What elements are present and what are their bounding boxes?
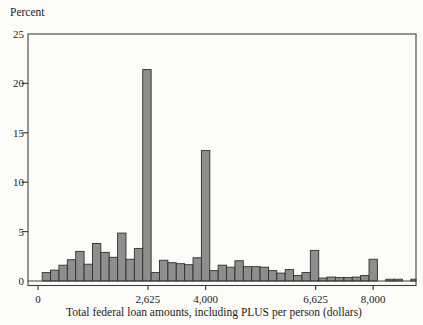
histogram-bar [76, 251, 84, 281]
histogram-bar [126, 259, 134, 281]
histogram-bar [218, 265, 226, 281]
histogram-bar [285, 270, 293, 281]
histogram-bar [277, 273, 285, 281]
histogram-bar [92, 243, 100, 281]
histogram-bar [201, 151, 209, 281]
histogram-bar [168, 263, 176, 281]
y-tick-label: 25 [2, 28, 24, 40]
y-axis-title: Percent [10, 6, 44, 18]
histogram-bar [227, 267, 235, 281]
histogram-figure: Percent 0510152025 02,6254,0006,6258,000… [0, 0, 423, 325]
y-tick-label: 5 [2, 226, 24, 238]
histogram-bar [59, 265, 67, 281]
x-tick-label: 8,000 [361, 293, 386, 305]
histogram-bar [268, 271, 276, 281]
histogram-bar [344, 278, 352, 281]
x-axis-caption: Total federal loan amounts, including PL… [66, 306, 362, 318]
histogram-bar [118, 233, 126, 281]
x-tick-label: 2,625 [136, 293, 161, 305]
plot-frame [28, 34, 416, 286]
histogram-bar [67, 260, 75, 281]
histogram-bar [361, 276, 369, 281]
histogram-bar [176, 264, 184, 281]
x-tick-label: 6,625 [303, 293, 328, 305]
histogram-bar [235, 261, 243, 281]
histogram-bar [243, 267, 251, 281]
histogram-bar [252, 267, 260, 281]
histogram-bar [42, 273, 50, 281]
histogram-bar [310, 250, 318, 281]
y-tick-label: 0 [2, 275, 24, 287]
y-tick-label: 10 [2, 176, 24, 188]
x-tick-label: 0 [35, 293, 41, 305]
plot-canvas [0, 0, 423, 325]
histogram-bar [260, 267, 268, 281]
y-tick-label: 15 [2, 127, 24, 139]
histogram-bar [302, 273, 310, 281]
histogram-bar [294, 276, 302, 281]
histogram-bar [109, 257, 117, 281]
histogram-bar [369, 259, 377, 281]
histogram-bar [51, 270, 59, 281]
histogram-bar [210, 271, 218, 281]
histogram-bar [143, 70, 151, 281]
x-tick-label: 4,000 [193, 293, 218, 305]
histogram-bar [160, 260, 168, 281]
histogram-bar [193, 258, 201, 281]
histogram-bar [134, 248, 142, 281]
histogram-bar [101, 252, 109, 281]
histogram-bar [352, 277, 360, 281]
histogram-bar [151, 273, 159, 281]
histogram-bar [335, 278, 343, 281]
histogram-bar [185, 265, 193, 281]
histogram-bar [84, 264, 92, 281]
y-tick-label: 20 [2, 77, 24, 89]
histogram-bar [327, 277, 335, 281]
